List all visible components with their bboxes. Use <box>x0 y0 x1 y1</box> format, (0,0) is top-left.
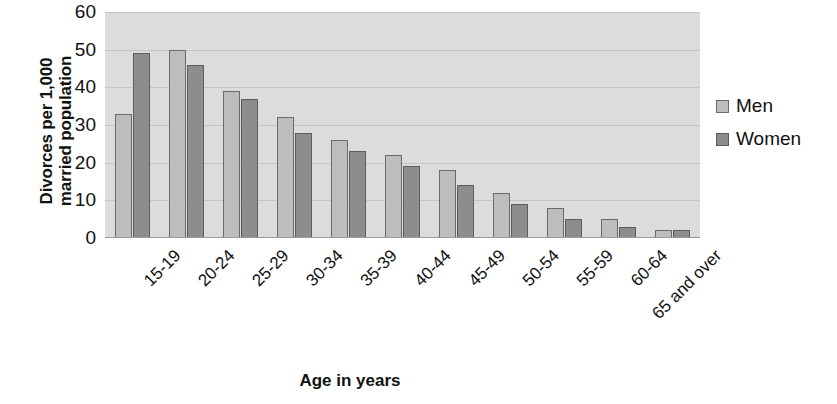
bar-women-15-19 <box>133 53 150 238</box>
bar-group <box>430 12 484 238</box>
bar-group <box>484 12 538 238</box>
bar-women-25-29 <box>241 99 258 238</box>
bar-men-30-34 <box>277 117 294 238</box>
y-axis-tick-label: 20 <box>75 152 96 174</box>
y-axis-tick-label: 10 <box>75 189 96 211</box>
bar-women-40-44 <box>403 166 420 238</box>
bar-group <box>375 12 429 238</box>
bar-women-35-39 <box>349 151 366 238</box>
bar-group <box>267 12 321 238</box>
legend-swatch-icon <box>716 133 729 146</box>
y-axis-tick-label: 40 <box>75 76 96 98</box>
bar-groups <box>105 12 700 238</box>
legend-swatch-icon <box>716 100 729 113</box>
y-axis-tick-label: 0 <box>85 227 96 249</box>
bar-men-50-54 <box>493 193 510 238</box>
x-axis-tick-labels: 15-1920-2425-2930-3435-3940-4445-4950-54… <box>105 240 700 360</box>
y-axis-tick-label: 50 <box>75 39 96 61</box>
legend-item-women: Women <box>716 128 834 150</box>
legend-label: Men <box>736 95 773 117</box>
x-axis-title: Age in years <box>0 371 700 391</box>
bar-group <box>592 12 646 238</box>
bar-men-55-59 <box>547 208 564 238</box>
y-axis-tick-label: 30 <box>75 114 96 136</box>
bar-group <box>213 12 267 238</box>
bar-group <box>538 12 592 238</box>
bar-men-40-44 <box>385 155 402 238</box>
bar-women-45-49 <box>457 185 474 238</box>
bar-group <box>159 12 213 238</box>
bar-men-60-64 <box>601 219 618 238</box>
legend: MenWomen <box>716 95 834 161</box>
bar-men-25-29 <box>223 91 240 238</box>
bar-women-50-54 <box>511 204 528 238</box>
legend-item-men: Men <box>716 95 834 117</box>
bar-women-20-24 <box>187 65 204 238</box>
x-axis-line <box>105 237 700 238</box>
plot-area <box>105 12 700 238</box>
bar-group <box>321 12 375 238</box>
bar-men-15-19 <box>115 114 132 238</box>
legend-label: Women <box>736 128 801 150</box>
bar-women-55-59 <box>565 219 582 238</box>
bar-group <box>105 12 159 238</box>
bar-men-45-49 <box>439 170 456 238</box>
y-axis-tick-labels: 0102030405060 <box>50 12 96 238</box>
bar-chart: Divorces per 1,000 married population 01… <box>0 0 837 404</box>
y-axis-tick-label: 60 <box>75 1 96 23</box>
bar-women-30-34 <box>295 133 312 238</box>
bar-men-35-39 <box>331 140 348 238</box>
bar-men-20-24 <box>169 50 186 238</box>
bar-group <box>646 12 700 238</box>
